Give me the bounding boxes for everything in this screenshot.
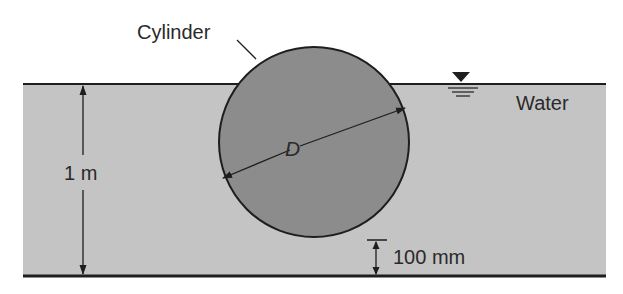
clearance-label: 100 mm <box>393 246 465 268</box>
cylinder-label: Cylinder <box>137 21 211 43</box>
cylinder-leader-line <box>237 40 256 59</box>
depth-label: 1 m <box>64 162 97 184</box>
cylinder <box>219 47 409 237</box>
diameter-label: D <box>285 137 300 160</box>
cylinder-in-water-diagram: D Cylinder Water 1 m 100 mm <box>0 0 623 294</box>
water-label: Water <box>516 92 569 114</box>
